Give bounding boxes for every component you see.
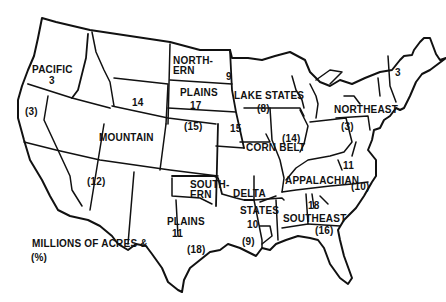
region-northern-plains-percent: (15) [184, 121, 203, 132]
region-delta-states-name2: STATES [240, 205, 279, 216]
region-southern-plains-acres: 11 [172, 228, 183, 239]
region-appalachian-name: APPALACHIAN [285, 175, 359, 186]
region-northern-plains-acres: 17 [190, 100, 202, 111]
region-corn-belt-acres: 15 [230, 123, 242, 134]
us-outline-map [0, 0, 446, 302]
region-southern-plains-name2: ERN [190, 189, 212, 200]
region-southeast-acres: 18 [308, 200, 320, 211]
region-delta-states-name1: DELTA [233, 188, 266, 199]
region-southeast-name: SOUTHEAST [283, 213, 346, 224]
region-pacific-percent: (3) [25, 106, 38, 117]
region-corn-belt-name: CORN BELT [246, 142, 305, 153]
region-name: PACIFIC [32, 64, 72, 75]
region-northeast-acres: 3 [395, 67, 401, 78]
region-southern-plains-percent: (18) [187, 244, 206, 255]
region-lake-states-name: LAKE STATES [234, 90, 304, 101]
region-delta-states-acres: 10 [247, 219, 259, 230]
legend-percent: (%) [31, 252, 47, 263]
region-northern-plains-name2: ERN [173, 65, 195, 76]
region-lake-states-acres: 9 [226, 71, 232, 82]
region-mountain-acres: 14 [132, 97, 144, 108]
region-northeast-percent: (3) [341, 121, 354, 132]
region-acres: 3 [32, 75, 72, 86]
region-appalachian-percent: (10) [351, 181, 370, 192]
region-pacific: PACIFIC 3 [32, 64, 72, 86]
region-delta-states-percent: (9) [242, 236, 255, 247]
region-northern-plains-name3: PLAINS [180, 87, 218, 98]
us-farm-regions-map: MILLIONS OF ACRES & (%) PACIFIC 3 (3) 14… [0, 0, 446, 302]
region-northeast-name: NORTHEAST [334, 104, 398, 115]
region-mountain-name: MOUNTAIN [99, 132, 154, 143]
region-southeast-percent: (16) [315, 225, 334, 236]
legend-units: MILLIONS OF ACRES & [32, 238, 148, 249]
region-southern-plains-name3: PLAINS [167, 216, 205, 227]
region-mountain-percent: (12) [87, 176, 106, 187]
region-appalachian-acres: 11 [343, 160, 354, 171]
region-lake-states-percent: (8) [257, 103, 270, 114]
